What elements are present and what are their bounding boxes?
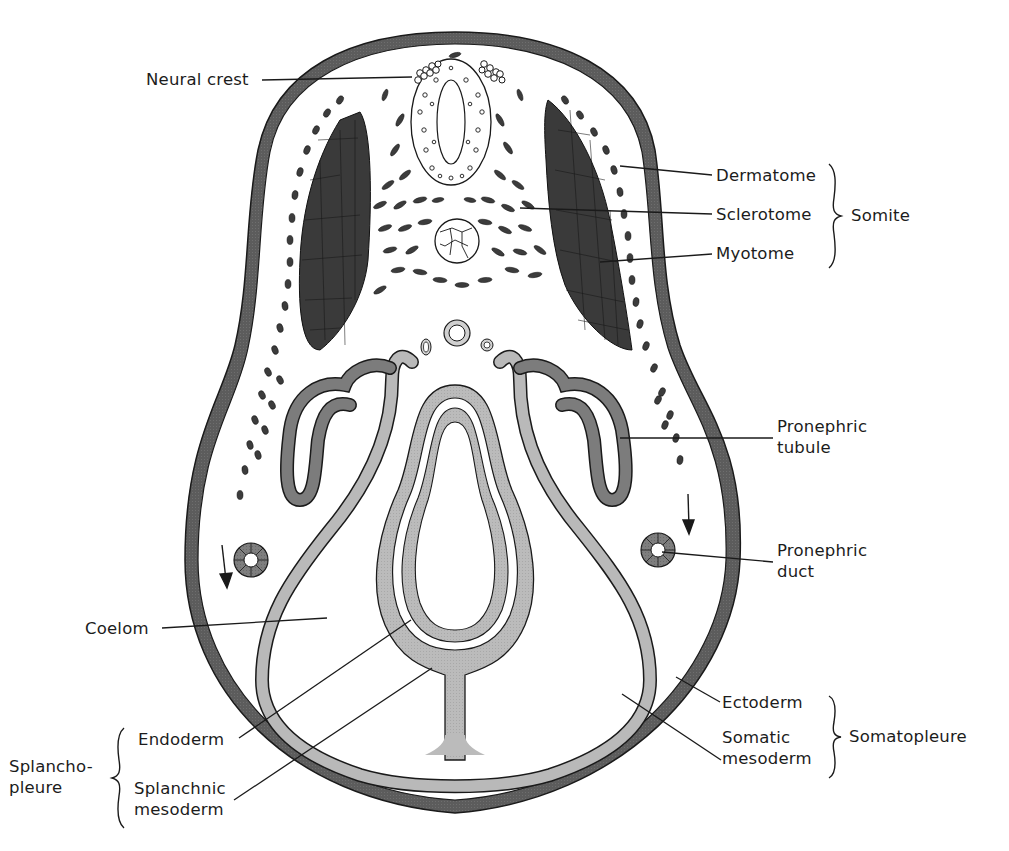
notochord — [435, 219, 479, 263]
somite-brace-icon — [826, 162, 846, 270]
label-splanchnic-mesoderm-line1: Splanchnic — [134, 778, 226, 799]
label-splanchnopleure: Splancho- pleure — [9, 756, 93, 798]
label-dermatome: Dermatome — [716, 166, 816, 186]
label-neural-crest: Neural crest — [146, 70, 249, 90]
pronephric-duct-left — [234, 543, 268, 577]
somatopleure-brace-icon — [826, 694, 846, 780]
label-pronephric-tubule: Pronephric tubule — [777, 416, 867, 458]
label-splanchnic-mesoderm-line2: mesoderm — [134, 799, 226, 820]
label-coelom: Coelom — [85, 619, 149, 639]
label-somatopleure: Somatopleure — [849, 727, 967, 747]
label-somatic-mesoderm-line2: mesoderm — [722, 748, 812, 769]
label-pronephric-duct-line1: Pronephric — [777, 540, 867, 561]
label-somatic-mesoderm: Somatic mesoderm — [722, 727, 812, 769]
embryo-cross-section-figure: Neural crest Dermatome Sclerotome Myotom… — [0, 0, 1009, 851]
label-pronephric-duct-line2: duct — [777, 561, 867, 582]
label-splanchnic-mesoderm: Splanchnic mesoderm — [134, 778, 226, 820]
label-somite: Somite — [851, 206, 910, 226]
splanchnopleure-brace-icon — [109, 726, 127, 830]
label-endoderm: Endoderm — [138, 730, 224, 750]
pronephric-duct-right — [641, 533, 675, 567]
label-pronephric-duct: Pronephric duct — [777, 540, 867, 582]
label-splanchnopleure-line2: pleure — [9, 777, 93, 798]
label-pronephric-tubule-line1: Pronephric — [777, 416, 867, 437]
label-myotome: Myotome — [716, 244, 794, 264]
label-ectoderm: Ectoderm — [722, 693, 803, 713]
label-somatic-mesoderm-line1: Somatic — [722, 727, 812, 748]
label-splanchnopleure-line1: Splancho- — [9, 756, 93, 777]
label-pronephric-tubule-line2: tubule — [777, 437, 867, 458]
label-sclerotome: Sclerotome — [716, 205, 812, 225]
